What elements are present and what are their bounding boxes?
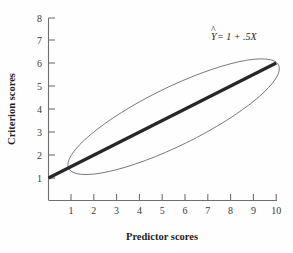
- chart-canvas: 8 7 6 5 4 3 2 1 1 2 3 4 5: [0, 0, 293, 253]
- x-tick-label: 2: [91, 205, 96, 216]
- x-tick-label: 8: [228, 205, 233, 216]
- equation-body: = 1 + .5X: [217, 31, 257, 42]
- y-axis-title: Criterion scores: [6, 73, 17, 145]
- y-tick-label: 5: [37, 81, 42, 92]
- x-tick-label: 3: [114, 205, 119, 216]
- x-tick-label: 5: [160, 205, 165, 216]
- x-tick-label: 6: [183, 205, 188, 216]
- y-tick-label: 8: [37, 13, 42, 24]
- y-tick-label: 1: [37, 173, 42, 184]
- y-tick-label: 7: [37, 35, 42, 46]
- x-tick-label: 1: [69, 205, 74, 216]
- regression-chart-figure: 8 7 6 5 4 3 2 1 1 2 3 4 5: [0, 0, 293, 253]
- equation-hat-icon: ^: [211, 24, 216, 35]
- x-tick-label: 10: [271, 205, 281, 216]
- x-axis-title: Predictor scores: [126, 231, 198, 242]
- x-tick-label: 7: [205, 205, 210, 216]
- y-tick-label: 2: [37, 150, 42, 161]
- y-tick-label: 3: [37, 127, 42, 138]
- x-tick-label: 9: [251, 205, 256, 216]
- y-tick-label: 4: [37, 104, 42, 115]
- y-tick-label: 6: [37, 58, 42, 69]
- x-tick-label: 4: [137, 205, 142, 216]
